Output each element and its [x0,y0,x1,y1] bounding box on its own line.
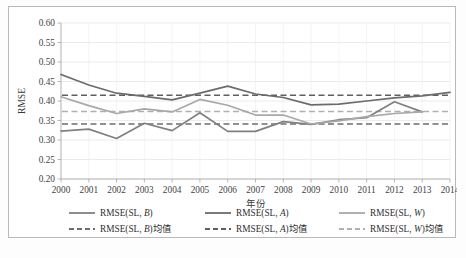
x-tick-label: 2002 [107,185,126,195]
x-tick-labels-group: 2000200120022003200420052006200720082009… [52,185,457,195]
x-axis-title: 年份 [246,198,266,209]
y-axis-title: RMSE [17,88,27,114]
y-tick-label: 0.35 [39,116,56,126]
rmse-line-chart: 0.600.550.500.450.400.350.300.250.20 200… [9,7,457,239]
legend-label: RMSE(SL, W) [370,208,425,219]
gridlines-group [61,23,450,179]
legend-label: RMSE(SL, A)均值 [236,223,307,235]
x-tick-label: 2008 [274,185,293,195]
legend-label: RMSE(SL, B) [100,208,153,219]
x-tick-label: 2014 [441,185,457,195]
y-tick-label: 0.20 [39,174,56,184]
y-tick-label: 0.40 [39,96,56,106]
x-tick-label: 2012 [385,185,404,195]
y-tick-label: 0.45 [39,77,56,87]
x-tick-label: 2013 [413,185,432,195]
x-tick-label: 2003 [135,185,154,195]
x-tick-label: 2004 [163,185,182,195]
plot-area-wrapper: 0.600.550.500.450.400.350.300.250.20 200… [9,7,457,239]
y-tick-label: 0.30 [39,135,56,145]
x-tick-label: 2010 [330,185,349,195]
chart-frame: 0.600.550.500.450.400.350.300.250.20 200… [8,6,456,238]
legend-label: RMSE(SL, B)均值 [100,223,171,235]
legend-label: RMSE(SL, W)均值 [370,223,443,235]
chart-figure: 0.600.550.500.450.400.350.300.250.20 200… [0,0,466,258]
x-tick-label: 2001 [79,185,98,195]
x-tick-label: 2011 [358,185,377,195]
x-tick-label: 2005 [191,185,210,195]
x-tick-label: 2009 [302,185,321,195]
x-tick-label: 2006 [218,185,237,195]
x-tick-label: 2007 [246,185,265,195]
y-tick-label: 0.50 [39,57,56,67]
y-tick-labels-group: 0.600.550.500.450.400.350.300.250.20 [39,18,56,184]
x-tick-label: 2000 [52,185,71,195]
chart-legend: RMSE(SL, B)RMSE(SL, A)RMSE(SL, W)RMSE(SL… [69,208,443,235]
legend-label: RMSE(SL, A) [236,208,289,219]
y-tick-label: 0.25 [39,155,56,165]
y-tick-label: 0.55 [39,38,56,48]
y-tick-label: 0.60 [39,18,56,28]
data-series-line [61,102,422,139]
